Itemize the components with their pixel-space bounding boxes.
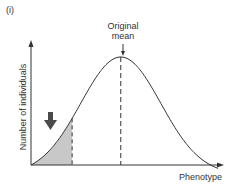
x-axis-label: Phenotype <box>179 172 222 182</box>
annotation-line-2: mean <box>112 31 135 41</box>
panel-label: (i) <box>6 5 14 15</box>
mean-pointer-arrowhead <box>121 51 125 56</box>
x-axis-arrowhead <box>217 163 224 168</box>
selection-down-arrow-icon <box>44 112 57 130</box>
diagram-canvas: (i) Original mean Number of individuals … <box>0 0 230 187</box>
y-axis-arrowhead <box>29 40 34 47</box>
y-axis-label: Number of individuals <box>18 63 28 150</box>
annotation-line-1: Original <box>107 21 138 31</box>
